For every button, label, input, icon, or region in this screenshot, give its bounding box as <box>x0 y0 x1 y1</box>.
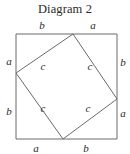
label-right-upper-b: b <box>120 57 126 68</box>
label-left-upper-a: a <box>6 56 12 67</box>
label-bottom-right-b: b <box>83 143 89 154</box>
label-top-right-a: a <box>90 20 96 31</box>
label-hyp-bot-right-c: c <box>86 103 91 114</box>
label-left-lower-b: b <box>6 106 12 117</box>
label-hyp-bot-left-c: c <box>41 103 46 114</box>
label-bottom-left-a: a <box>33 143 39 154</box>
label-hyp-top-left-c: c <box>41 61 46 72</box>
label-top-left-b: b <box>39 20 45 31</box>
diagram-figure: Diagram 2 b a a b b a a b c c c c <box>0 0 130 153</box>
label-hyp-top-right-c: c <box>88 61 93 72</box>
inner-square-shape <box>16 34 117 139</box>
outer-square-shape <box>16 34 117 139</box>
diagram-canvas <box>0 0 130 153</box>
label-right-lower-a: a <box>120 108 126 119</box>
